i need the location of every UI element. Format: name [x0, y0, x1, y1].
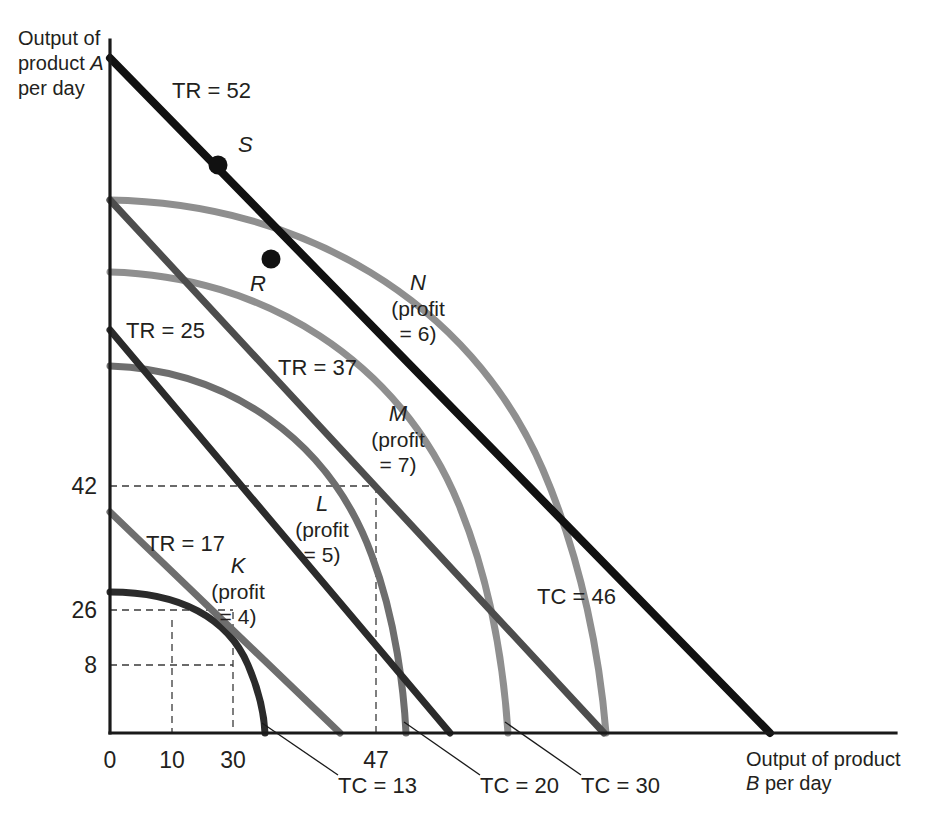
- label-tc-30: TC = 30: [581, 773, 660, 798]
- y-tick-26: 26: [71, 597, 97, 623]
- point-label-m-sub1: (profit: [371, 428, 425, 451]
- line-tr-37: [110, 200, 604, 733]
- x-axis-title-product-letter: B: [746, 772, 759, 794]
- y-axis-title: Output of product A per day: [18, 27, 104, 99]
- point-label-s: S: [238, 132, 253, 157]
- point-label-n-sub1: (profit: [391, 297, 445, 320]
- point-label-m: M (profit = 7): [371, 401, 425, 476]
- x-tick-10: 10: [159, 747, 185, 773]
- point-label-r: R: [250, 271, 266, 296]
- isorevenue-lines: [110, 58, 770, 733]
- point-label-m-sub2: = 7): [380, 453, 417, 476]
- point-label-r-text: R: [250, 271, 266, 296]
- point-label-l-sub1: (profit: [295, 518, 349, 541]
- leader-tc-30: [505, 722, 581, 775]
- point-dot-s: [209, 156, 228, 175]
- point-label-k-sub2: = 4): [220, 605, 257, 628]
- label-tr-25: TR = 25: [126, 318, 205, 343]
- x-tick-47: 47: [363, 747, 389, 773]
- x-tick-labels: 0 10 30 47: [104, 747, 389, 773]
- label-tc-20: TC = 20: [480, 773, 559, 798]
- point-label-n-text: N: [410, 270, 426, 295]
- y-axis-title-line2: product A: [18, 52, 104, 74]
- leader-tc-13: [262, 723, 338, 775]
- point-label-n: N (profit = 6): [391, 270, 445, 345]
- point-label-n-sub2: = 6): [400, 322, 437, 345]
- x-axis-title-line1: Output of product: [746, 748, 901, 770]
- chart-root: Output of product A per day Output of pr…: [0, 0, 928, 827]
- y-axis-title-line1: Output of: [18, 27, 101, 49]
- point-label-k-sub1: (profit: [211, 580, 265, 603]
- point-dot-r: [262, 250, 281, 269]
- line-tr-52: [110, 58, 770, 733]
- label-tr-17: TR = 17: [146, 531, 225, 556]
- label-tc-46: TC = 46: [537, 584, 616, 609]
- y-tick-labels: 42 26 8: [71, 473, 97, 678]
- x-axis-title-rest: per day: [759, 772, 831, 794]
- point-label-l-sub2: = 5): [304, 543, 341, 566]
- x-tick-30: 30: [220, 747, 246, 773]
- leader-lines: [262, 722, 581, 775]
- y-axis-title-line3: per day: [18, 77, 85, 99]
- point-label-l: L (profit = 5): [295, 491, 349, 566]
- leader-tc-20: [404, 722, 480, 775]
- label-tr-37: TR = 37: [278, 355, 357, 380]
- x-axis-title: Output of product B per day: [746, 748, 901, 794]
- y-tick-42: 42: [71, 473, 97, 499]
- point-label-k-text: K: [231, 553, 247, 578]
- y-axis-title-product-letter: A: [89, 52, 103, 74]
- point-label-l-text: L: [316, 491, 328, 516]
- label-tr-52: TR = 52: [172, 78, 251, 103]
- point-label-m-text: M: [389, 401, 408, 426]
- x-axis-title-line2: B per day: [746, 772, 832, 794]
- economics-isoquant-figure: Output of product A per day Output of pr…: [0, 0, 928, 827]
- label-tc-13: TC = 13: [338, 773, 417, 798]
- point-label-s-text: S: [238, 132, 253, 157]
- x-tick-0: 0: [104, 747, 117, 773]
- y-axis-title-line2-text: product: [18, 52, 90, 74]
- y-tick-8: 8: [84, 652, 97, 678]
- point-label-k: K (profit = 4): [211, 553, 265, 628]
